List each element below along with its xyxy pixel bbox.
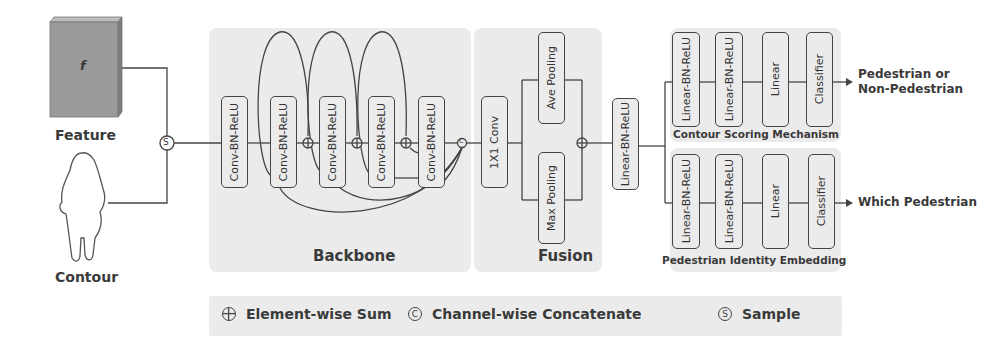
fusion-title: Fusion bbox=[538, 247, 593, 265]
scoring-title: Contour Scoring Mechanism bbox=[673, 128, 839, 140]
feature-symbol: f bbox=[80, 58, 86, 73]
identity-block-3: Linear bbox=[762, 154, 789, 249]
sample-operator: S bbox=[163, 137, 169, 147]
scoring-block-2: Linear-BN-ReLU bbox=[715, 32, 743, 127]
contour-label: Contour bbox=[55, 269, 118, 285]
scoring-block-3: Linear bbox=[762, 32, 789, 127]
sum-icon bbox=[222, 307, 236, 321]
fusion-max-pool-block: Max Pooling bbox=[538, 152, 565, 244]
identity-block-4: Classifier bbox=[808, 154, 835, 249]
identity-block-2: Linear-BN-ReLU bbox=[715, 154, 743, 249]
fusion-conv-block: 1X1 Conv bbox=[481, 96, 508, 188]
backbone-block-1: Conv-BN-ReLU bbox=[221, 96, 248, 188]
identity-block-1: Linear-BN-ReLU bbox=[672, 154, 700, 249]
legend-sum: Element-wise Sum bbox=[222, 306, 391, 322]
legend-concat: C Channel-wise Concatenate bbox=[408, 306, 642, 322]
identity-title: Pedestrian Identity Embedding bbox=[662, 254, 846, 266]
identity-output: Which Pedestrian bbox=[858, 195, 977, 210]
backbone-block-4: Conv-BN-ReLU bbox=[368, 96, 395, 188]
legend-sample: S Sample bbox=[718, 306, 800, 322]
backbone-block-5: Conv-BN-ReLU bbox=[418, 96, 445, 188]
fusion-linear-block: Linear-BN-ReLU bbox=[612, 98, 639, 190]
backbone-block-3: Conv-BN-ReLU bbox=[319, 96, 346, 188]
backbone-block-2: Conv-BN-ReLU bbox=[270, 96, 297, 188]
scoring-output: Pedestrian or Non-Pedestrian bbox=[858, 67, 963, 97]
scoring-block-4: Classifier bbox=[806, 32, 833, 127]
sample-icon: S bbox=[718, 307, 732, 321]
feature-label: Feature bbox=[55, 127, 116, 143]
backbone-title: Backbone bbox=[313, 247, 395, 265]
fusion-ave-pool-block: Ave Pooling bbox=[538, 32, 565, 124]
concat-operator: C bbox=[459, 137, 464, 145]
scoring-block-1: Linear-BN-ReLU bbox=[672, 32, 700, 127]
concat-icon: C bbox=[408, 307, 422, 321]
